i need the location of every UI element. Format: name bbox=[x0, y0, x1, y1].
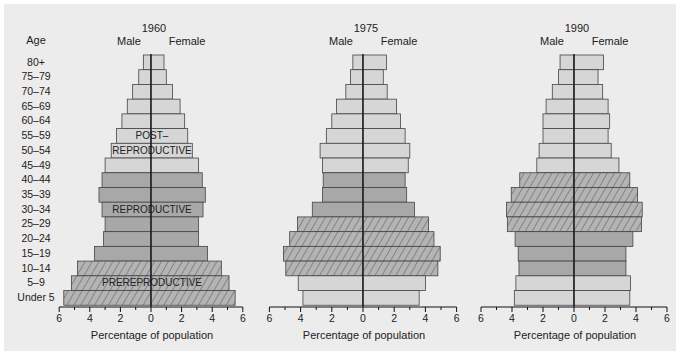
male-bar bbox=[133, 84, 151, 99]
male-bar bbox=[353, 55, 363, 70]
age-axis-header: Age bbox=[26, 34, 46, 46]
male-bar bbox=[290, 232, 363, 247]
female-bar bbox=[363, 202, 414, 217]
male-bar bbox=[332, 114, 363, 129]
age-label: 50–54 bbox=[21, 144, 50, 156]
female-bar bbox=[574, 129, 608, 144]
female-bar bbox=[574, 99, 608, 114]
female-bar bbox=[574, 202, 642, 217]
female-bar bbox=[574, 246, 626, 261]
male-bar bbox=[312, 202, 363, 217]
male-bar bbox=[286, 261, 363, 276]
female-bar bbox=[363, 246, 440, 261]
female-bar bbox=[363, 70, 383, 85]
male-bar bbox=[64, 291, 151, 306]
male-label: Male bbox=[117, 35, 141, 47]
stage-annotation: PREREPRODUCTIVE bbox=[102, 277, 202, 288]
female-bar bbox=[574, 291, 630, 306]
pyramid-panel-1960: 1960MaleFemalePOST–REPRODUCTIVEREPRODUCT… bbox=[56, 22, 246, 341]
male-bar bbox=[105, 217, 151, 232]
x-tick-label: 2 bbox=[179, 312, 185, 324]
female-bar bbox=[151, 246, 208, 261]
female-bar bbox=[574, 114, 610, 129]
panel-year-title: 1990 bbox=[565, 22, 589, 34]
female-bar bbox=[151, 84, 172, 99]
x-tick-label: 6 bbox=[240, 312, 246, 324]
x-tick-label: 6 bbox=[664, 312, 670, 324]
male-bar bbox=[122, 114, 151, 129]
panel-year-title: 1975 bbox=[354, 22, 378, 34]
x-tick-label: 6 bbox=[56, 312, 62, 324]
age-label: 25–29 bbox=[21, 217, 50, 229]
age-label: 20–24 bbox=[21, 232, 50, 244]
male-bar bbox=[139, 70, 151, 85]
female-bar bbox=[574, 143, 611, 158]
male-bar bbox=[322, 187, 363, 202]
female-label: Female bbox=[169, 35, 206, 47]
male-bar bbox=[94, 246, 151, 261]
female-bar bbox=[363, 261, 438, 276]
age-label: 10–14 bbox=[21, 262, 50, 274]
male-bar bbox=[543, 114, 574, 129]
female-label: Female bbox=[381, 35, 418, 47]
male-bar bbox=[323, 173, 363, 188]
female-bar bbox=[151, 232, 198, 247]
x-tick-label: 0 bbox=[571, 312, 577, 324]
female-bar bbox=[151, 114, 185, 129]
x-tick-label: 4 bbox=[633, 312, 639, 324]
female-bar bbox=[151, 217, 198, 232]
male-bar bbox=[518, 246, 574, 261]
female-bar bbox=[151, 55, 164, 70]
age-label: 30–34 bbox=[21, 203, 50, 215]
female-bar bbox=[363, 143, 410, 158]
age-label: 15–19 bbox=[21, 247, 50, 259]
x-tick-label: 4 bbox=[87, 312, 93, 324]
x-tick-label: 2 bbox=[329, 312, 335, 324]
x-tick-label: 2 bbox=[602, 312, 608, 324]
female-bar bbox=[574, 276, 631, 291]
female-bar bbox=[363, 291, 419, 306]
male-bar bbox=[336, 99, 363, 114]
female-bar bbox=[574, 158, 619, 173]
pyramid-panel-1975: 1975MaleFemale6420246Percentage of popul… bbox=[266, 22, 459, 341]
female-bar bbox=[151, 158, 198, 173]
female-bar bbox=[363, 55, 386, 70]
female-bar bbox=[363, 129, 405, 144]
female-label: Female bbox=[592, 35, 629, 47]
male-label: Male bbox=[329, 35, 353, 47]
male-label: Male bbox=[540, 35, 564, 47]
age-label: 55–59 bbox=[21, 129, 50, 141]
male-bar bbox=[559, 70, 575, 85]
x-tick-label: 6 bbox=[454, 312, 460, 324]
male-bar bbox=[519, 261, 574, 276]
female-bar bbox=[151, 99, 180, 114]
female-bar bbox=[363, 232, 434, 247]
x-tick-label: 2 bbox=[391, 312, 397, 324]
female-bar bbox=[151, 187, 205, 202]
age-label: 75–79 bbox=[21, 70, 50, 82]
female-bar bbox=[574, 84, 603, 99]
age-label: 35–39 bbox=[21, 188, 50, 200]
x-axis-title: Percentage of population bbox=[514, 329, 636, 341]
x-tick-label: 4 bbox=[509, 312, 515, 324]
female-bar bbox=[363, 173, 405, 188]
male-bar bbox=[546, 99, 574, 114]
male-bar bbox=[516, 276, 574, 291]
female-bar bbox=[574, 261, 626, 276]
male-bar bbox=[560, 55, 574, 70]
stage-annotation: REPRODUCTIVE bbox=[112, 145, 192, 156]
x-tick-label: 2 bbox=[117, 312, 123, 324]
female-bar bbox=[151, 261, 221, 276]
age-label: 80+ bbox=[27, 56, 45, 68]
male-bar bbox=[322, 158, 363, 173]
age-label: 65–69 bbox=[21, 100, 50, 112]
male-bar bbox=[104, 232, 151, 247]
male-bar bbox=[297, 217, 363, 232]
female-bar bbox=[151, 70, 166, 85]
stage-annotation: POST– bbox=[136, 130, 169, 141]
male-bar bbox=[99, 187, 151, 202]
male-bar bbox=[326, 129, 363, 144]
male-bar bbox=[515, 232, 574, 247]
population-pyramids-chart: Age 80+75–7970–7465–6960–6455–5950–5445–… bbox=[0, 0, 687, 362]
stage-annotation: REPRODUCTIVE bbox=[112, 204, 192, 215]
